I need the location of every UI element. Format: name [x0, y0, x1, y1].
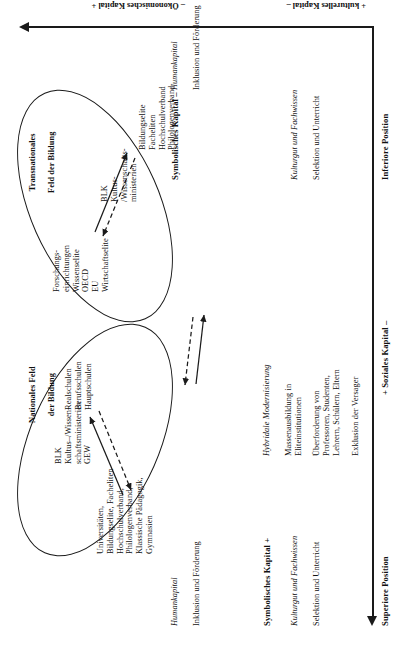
- horizontal-axis-line: [372, 26, 374, 618]
- transnational-middle-group: BLK Kultus- /Wissenschafts- ministerien: [100, 148, 139, 202]
- annotation-center-body1: Massenausbildung in Eliteinstitutionen: [284, 384, 304, 456]
- annotation-right-bottom-body: Inklusion und Förderung: [192, 5, 202, 90]
- annotation-left-bottom-body: Inklusion und Förderung: [192, 541, 202, 626]
- annotation-left-top-body: Selektion und Unterricht: [312, 542, 322, 626]
- diagram-page: Nationales Feld der Bildung Transnationa…: [0, 0, 419, 650]
- figure-canvas: Nationales Feld der Bildung Transnationa…: [0, 0, 419, 650]
- axis-label-kulturelles-kapital: + kulturelles Kapital –: [287, 0, 367, 10]
- national-superior-group: Universitäten, Bildungselite, Facheliten…: [96, 469, 155, 554]
- annotation-center-body3: Exklusion der Versager: [351, 377, 361, 456]
- annotation-center-body2: Überforderung von Professoren, Studenten…: [312, 369, 341, 456]
- vertical-axis-line: [28, 26, 373, 28]
- arrow-inter-field-pair: [185, 315, 204, 385]
- axis-label-oekonomisches-kapital: – Ökonomisches Kapital +: [92, 0, 185, 10]
- national-middle-group: BLK Kultus–/Wissen- schaftsministerien G…: [54, 402, 93, 464]
- national-inferior-group: Realschulen Berufsschulen Hauptschulen: [64, 361, 93, 410]
- field-title-national-line1: Nationales Feld: [28, 366, 37, 423]
- annotation-right-top-heading: Symbolisches Kapital –: [170, 92, 180, 180]
- field-title-transnational-line2: Feld der Bildung: [47, 132, 56, 193]
- transnational-superior-group: Forschungs- einrichtungen Wissenselite O…: [52, 238, 111, 292]
- annotation-left-top-heading: Symbolisches Kapital +: [262, 538, 272, 626]
- field-title-transnational: Transnationales Feld der Bildung: [18, 132, 67, 206]
- annotation-right-bottom-subheading: Humankapital: [170, 41, 180, 90]
- annotation-center-subheading: Hybridale Modernisierung: [262, 364, 272, 456]
- axis-label-soziales-kapital: + Soziales Kapital –: [380, 321, 390, 395]
- annotation-left-bottom-subheading: Humankapital: [170, 577, 180, 626]
- annotation-right-top-subheading: Kulturgut und Fachwissen: [290, 90, 300, 180]
- annotation-left-top-subheading: Kulturgut und Fachwissen: [290, 536, 300, 626]
- horizontal-axis-arrowhead: [367, 616, 377, 626]
- annotation-right-top-body: Selektion und Unterricht: [312, 96, 322, 180]
- axis-label-superiore-position: Superiore Position: [380, 556, 390, 626]
- field-title-transnational-line1: Transnationales: [28, 133, 37, 191]
- vertical-axis-arrowhead: [19, 23, 29, 33]
- axis-label-inferiore-position: Inferiore Position: [380, 114, 390, 180]
